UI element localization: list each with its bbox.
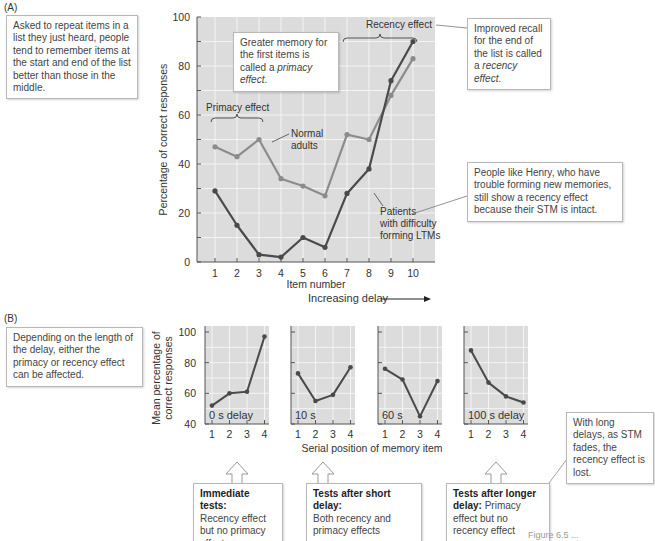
y-tick-label: 100: [172, 11, 190, 23]
callout-heading: Immediate tests:: [200, 488, 249, 511]
x-tick-label: 1: [382, 428, 388, 440]
y-axis-title: Mean percentage of: [150, 331, 162, 424]
x-tick-label: 4: [521, 428, 527, 440]
patients-label: Patients: [380, 206, 416, 217]
data-point: [504, 394, 509, 399]
data-point: [234, 223, 239, 228]
x-tick-label: 4: [348, 428, 354, 440]
delay-explainer-note: Depending on the length of the delay, ei…: [6, 327, 143, 387]
y-tick-label: 60: [178, 109, 190, 121]
data-point: [300, 183, 305, 188]
callout-heading: Tests after short delay:: [313, 488, 391, 511]
data-point: [331, 393, 336, 398]
x-tick-label: 1: [468, 428, 474, 440]
data-point: [410, 56, 415, 61]
note-text: Asked to repeat items in a list they jus…: [13, 20, 131, 93]
x-tick-label: 10: [407, 267, 419, 279]
x-tick-label: 3: [330, 428, 336, 440]
x-tick-label: 1: [295, 428, 301, 440]
leader-line: [436, 25, 467, 28]
y-axis-title: Percentage of correct responses: [157, 64, 169, 216]
y-tick-label: 0: [184, 256, 190, 268]
data-point: [322, 193, 327, 198]
data-point: [313, 399, 318, 404]
y-tick-label: 80: [178, 60, 190, 72]
data-point: [234, 154, 239, 159]
data-point: [212, 188, 217, 193]
data-point: [418, 414, 423, 419]
serial-position-explainer-note: Asked to repeat items in a list they jus…: [6, 15, 138, 99]
x-tick-label: 2: [400, 428, 406, 440]
data-point: [366, 137, 371, 142]
note-text: Depending on the length of the delay, ei…: [13, 332, 133, 380]
data-point: [388, 93, 393, 98]
delay-condition-label: 0 s delay: [209, 409, 254, 421]
y-axis-title: correct responses: [162, 336, 174, 419]
normal-adults-label: adults: [291, 140, 318, 151]
data-point: [400, 377, 405, 382]
x-tick-label: 2: [486, 428, 492, 440]
data-point: [278, 255, 283, 260]
x-tick-label: 3: [256, 267, 262, 279]
up-arrow-icon: [226, 462, 248, 484]
data-point: [256, 252, 261, 257]
x-tick-label: 8: [366, 267, 372, 279]
normal-adults-label: Normal: [291, 128, 323, 139]
data-point: [410, 39, 415, 44]
increasing-delay-label: Increasing delay: [308, 292, 389, 304]
recency-bracket-label: Recency effect: [366, 19, 432, 30]
data-point: [435, 379, 440, 384]
callout-text: Both recency and primacy effects: [313, 513, 391, 536]
henry-note: People like Henry, who have trouble form…: [467, 162, 623, 222]
y-tick-label: 60: [184, 387, 196, 399]
y-tick-label: 80: [184, 357, 196, 369]
note-text: With long delays, as STM fades, the rece…: [573, 417, 645, 478]
delay-condition-label: 60 s: [382, 409, 403, 421]
data-point: [245, 390, 250, 395]
data-point: [383, 367, 388, 372]
x-tick-label: 3: [503, 428, 509, 440]
delay-condition-label: 10 s: [295, 409, 316, 421]
y-tick-label: 100: [178, 326, 196, 338]
figure-caption-fragment: Figure 6.5 ...: [528, 530, 579, 540]
primacy-definition-note: Greater memory for the first items is ca…: [233, 32, 339, 92]
x-tick-label: 2: [234, 267, 240, 279]
x-tick-label: 1: [212, 267, 218, 279]
x-tick-label: 2: [313, 428, 319, 440]
note-text: People like Henry, who have trouble form…: [474, 167, 611, 215]
y-tick-label: 40: [178, 158, 190, 170]
data-point: [210, 403, 215, 408]
patients-label: with difficulty: [379, 218, 437, 229]
x-tick-label: 4: [278, 267, 284, 279]
recency-definition-note: Improved recall for the end of the list …: [467, 18, 551, 90]
data-point: [469, 348, 474, 353]
data-point: [278, 176, 283, 181]
primacy-bracket-label: Primacy effect: [206, 102, 269, 113]
x-tick-label: 9: [388, 267, 394, 279]
callout-immediate-tests: Immediate tests: Recency effect but no p…: [193, 483, 283, 541]
data-point: [348, 365, 353, 370]
data-point: [344, 191, 349, 196]
long-delay-note: With long delays, as STM fades, the rece…: [566, 412, 654, 484]
x-tick-label: 4: [262, 428, 268, 440]
data-point: [227, 391, 232, 396]
data-point: [388, 78, 393, 83]
x-axis-title: Serial position of memory item: [301, 442, 442, 454]
data-point: [256, 137, 261, 142]
data-point: [366, 166, 371, 171]
arrow-right-icon: [424, 296, 431, 302]
y-tick-label: 20: [178, 207, 190, 219]
x-tick-label: 3: [417, 428, 423, 440]
x-tick-label: 4: [435, 428, 441, 440]
note-text: .: [264, 74, 267, 85]
data-point: [300, 235, 305, 240]
x-tick-label: 1: [209, 428, 215, 440]
y-tick-label: 40: [184, 418, 196, 430]
data-point: [296, 371, 301, 376]
note-text: .: [498, 73, 501, 84]
callout-text: Recency effect but no primacy effect: [200, 513, 266, 541]
up-arrow-icon: [312, 462, 334, 484]
data-point: [212, 144, 217, 149]
x-tick-label: 3: [244, 428, 250, 440]
patients-label: forming LTMs: [380, 230, 440, 241]
